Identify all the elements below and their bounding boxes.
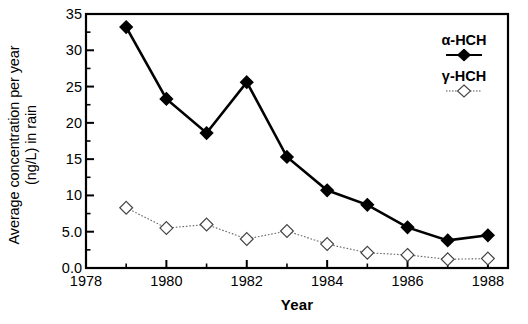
data-point-marker: [281, 225, 294, 238]
data-point-marker: [200, 218, 213, 231]
data-point-marker: [402, 221, 414, 233]
data-point-marker: [482, 252, 495, 265]
data-point-marker: [160, 222, 173, 235]
legend: α-HCH γ-HCH: [424, 32, 504, 104]
data-point-marker: [321, 238, 334, 251]
data-point-marker: [442, 234, 454, 246]
legend-swatch-open-diamond-icon: [424, 84, 504, 98]
data-point-marker: [441, 253, 454, 266]
legend-entry-gamma: γ-HCH: [424, 68, 504, 98]
data-point-marker: [401, 249, 414, 262]
data-point-marker: [361, 199, 373, 211]
data-point-marker: [240, 233, 253, 246]
data-point-marker: [482, 229, 494, 241]
data-point-marker: [120, 21, 132, 33]
legend-label-alpha: α-HCH: [424, 32, 504, 48]
data-point-marker: [120, 201, 133, 214]
series-line: [126, 208, 488, 259]
legend-swatch-filled-diamond-icon: [424, 48, 504, 62]
data-point-marker: [361, 246, 374, 259]
legend-entry-alpha: α-HCH: [424, 32, 504, 62]
legend-label-gamma: γ-HCH: [424, 68, 504, 84]
chart-figure: Average concentration per year (ng/L) in…: [0, 0, 528, 324]
